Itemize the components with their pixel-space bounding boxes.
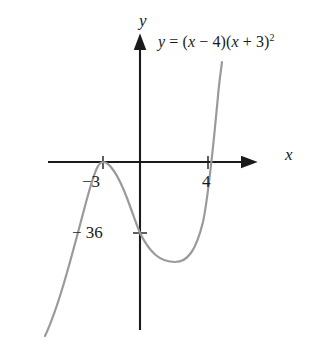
graph-figure: y x y = (x − 4)(x + 3)2 −3 4 − 36 — [0, 0, 314, 342]
y-axis-label: y — [139, 12, 147, 29]
equation-eq: = ( — [165, 33, 188, 50]
root-label-4: 4 — [202, 173, 211, 190]
x-axis-label: x — [285, 146, 293, 163]
root-label-minus3: −3 — [82, 173, 100, 190]
equation-exponent: 2 — [270, 32, 275, 43]
equation-label: y = (x − 4)(x + 3)2 — [158, 34, 275, 50]
graph-canvas — [0, 0, 314, 342]
cubic-curve — [45, 62, 222, 336]
y-intercept-label: − 36 — [72, 224, 103, 241]
equation-mid: − 4)( — [195, 33, 231, 50]
equation-tail: + 3) — [239, 33, 270, 50]
equation-x2: x — [231, 33, 238, 50]
